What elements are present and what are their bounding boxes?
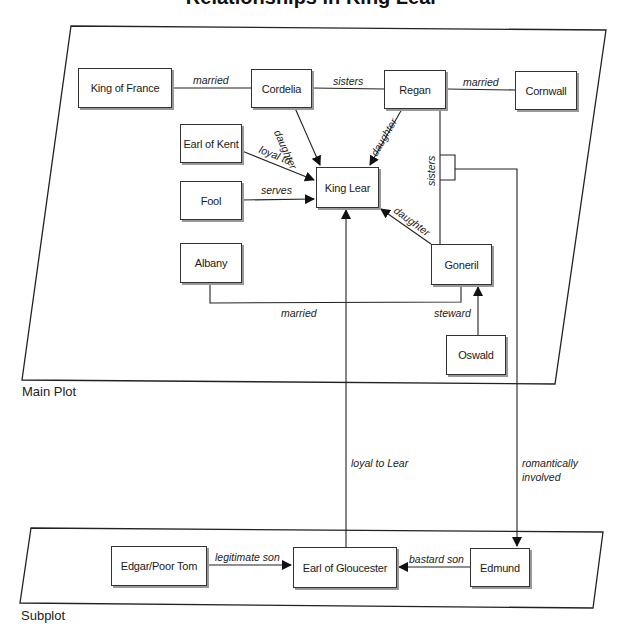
node-earl-of-gloucester: Earl of Gloucester — [293, 547, 397, 588]
node-earl-of-kent: Earl of Kent — [180, 124, 242, 163]
edge-label-regan-cornwall: married — [463, 76, 499, 88]
node-king-of-france: King of France — [78, 68, 172, 108]
edge-label-cordelia-regan: sisters — [333, 75, 363, 87]
node-cordelia: Cordelia — [251, 69, 312, 108]
node-regan: Regan — [384, 70, 446, 109]
edge-label-romantically: romantically — [522, 457, 578, 469]
subplot-label: Subplot — [21, 608, 65, 623]
edge-label-regan-goneril-sisters: sisters — [425, 156, 437, 186]
node-oswald: Oswald — [446, 335, 506, 375]
edge-label-albany-goneril: married — [281, 307, 317, 319]
node-goneril: Goneril — [431, 244, 492, 285]
node-edgar: Edgar/Poor Tom — [111, 546, 207, 586]
node-albany: Albany — [180, 243, 242, 283]
node-king-lear: King Lear — [316, 167, 379, 208]
edge-label-france-cordelia: married — [193, 74, 229, 86]
node-cornwall: Cornwall — [515, 71, 577, 110]
main-plot-label: Main Plot — [22, 384, 76, 399]
edge-label-oswald-goneril: steward — [434, 307, 471, 319]
edge-label-involved: involved — [522, 471, 561, 483]
edge-label-fool-lear: serves — [261, 184, 292, 196]
edge-label-edgar-gloucester: legitimate son — [215, 551, 280, 563]
node-edmund: Edmund — [470, 548, 530, 587]
edge-label-edmund-gloucester: bastard son — [409, 553, 464, 565]
edge-label-gloucester-lear: loyal to Lear — [351, 457, 408, 469]
node-fool: Fool — [180, 181, 242, 220]
